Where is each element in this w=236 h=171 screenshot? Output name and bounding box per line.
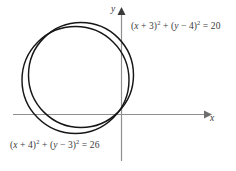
eq1-minus-4: − 4): [178, 21, 197, 31]
equation-label-circle-2: (x + 4)2 + (y − 3)2 = 26: [10, 140, 99, 150]
y-axis-label: y: [111, 4, 115, 14]
equation-label-circle-1: (x + 3)2 + (y − 4)2 = 20: [131, 21, 220, 31]
eq1-equals-20: = 20: [200, 21, 220, 31]
eq2-minus-3: − 3): [57, 140, 76, 150]
eq2-equals-26: = 26: [79, 140, 99, 150]
eq1-plus-3: + 3): [139, 21, 158, 31]
x-axis-label: x: [210, 113, 214, 123]
eq2-plus: + (: [39, 140, 53, 150]
eq1-plus: + (: [160, 21, 174, 31]
eq2-plus-4: + 4): [18, 140, 37, 150]
